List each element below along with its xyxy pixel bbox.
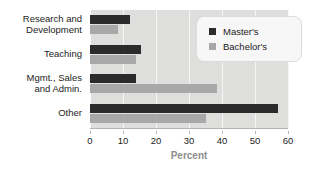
tick-mark (255, 131, 256, 134)
legend-swatch-icon (209, 43, 216, 50)
bar (90, 84, 217, 93)
tick-mark (189, 131, 190, 134)
legend-item[interactable]: Master's (209, 24, 301, 39)
legend-item[interactable]: Bachelor's (209, 39, 301, 54)
bar (90, 114, 206, 123)
x-tick-label: 0 (87, 135, 92, 146)
x-tick-label: 20 (151, 135, 162, 146)
x-tick-label: 40 (217, 135, 228, 146)
bar (90, 55, 136, 64)
bar (90, 25, 118, 34)
category-label: Mgmt., Sales and Admin. (0, 73, 82, 94)
x-tick-label: 30 (184, 135, 195, 146)
bar-group (90, 74, 288, 104)
bar-chart: Research and DevelopmentTeachingMgmt., S… (0, 0, 321, 171)
x-axis-line (90, 128, 288, 129)
category-axis: Research and DevelopmentTeachingMgmt., S… (0, 10, 86, 128)
x-tick-label: 50 (250, 135, 261, 146)
tick-mark (123, 131, 124, 134)
x-axis-ticks: 0102030405060 (90, 131, 288, 145)
x-tick-label: 60 (283, 135, 294, 146)
x-axis-title: Percent (90, 150, 288, 161)
tick-mark (288, 131, 289, 134)
tick-mark (222, 131, 223, 134)
tick-mark (156, 131, 157, 134)
bar (90, 45, 141, 54)
legend-label: Master's (223, 26, 259, 37)
category-label: Teaching (0, 49, 82, 60)
category-label: Research and Development (0, 14, 82, 35)
chart-legend: Master'sBachelor's (196, 16, 302, 62)
legend-label: Bachelor's (223, 41, 267, 52)
tick-mark (90, 131, 91, 134)
x-tick-label: 10 (118, 135, 129, 146)
bar (90, 104, 278, 113)
bar (90, 15, 130, 24)
legend-swatch-icon (209, 28, 216, 35)
bar (90, 74, 136, 83)
category-label: Other (0, 108, 82, 119)
